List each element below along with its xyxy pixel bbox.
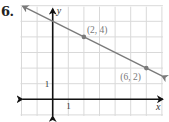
- point-label-2-4: (2, 4): [87, 25, 108, 36]
- x-tick-label-1: 1: [66, 101, 71, 111]
- line-y-equals-neg-half-x-plus-5: [23, 6, 162, 76]
- y-axis-label: y: [56, 5, 62, 16]
- point-label-6-2: (6, 2): [120, 72, 141, 83]
- coordinate-plane: yx11(2, 4)(6, 2): [0, 0, 169, 122]
- point-marker: [82, 35, 87, 40]
- point-marker: [144, 66, 149, 71]
- y-tick-label-1: 1: [45, 79, 50, 89]
- graph-figure: 6. yx11(2, 4)(6, 2): [0, 0, 169, 122]
- x-axis-label: x: [155, 101, 161, 112]
- graphed-line: [23, 6, 162, 76]
